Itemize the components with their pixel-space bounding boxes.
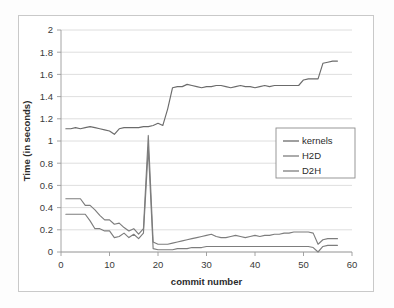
legend-label-h2d: H2D (302, 150, 321, 161)
x-tick-label: 60 (347, 259, 358, 270)
x-tick-label: 50 (298, 259, 309, 270)
y-tick-label: 1.4 (40, 91, 53, 102)
x-tick-label: 30 (201, 259, 212, 270)
x-tick-label: 10 (104, 259, 115, 270)
legend-label-d2h: D2H (302, 165, 321, 176)
x-tick-label: 40 (250, 259, 261, 270)
y-tick-label: 0.4 (40, 202, 53, 213)
x-tick-label: 0 (58, 259, 63, 270)
chart-figure: 00.20.40.60.811.21.41.61.82 010203040506… (0, 0, 394, 308)
line-chart: 00.20.40.60.811.21.41.61.82 010203040506… (0, 0, 394, 308)
y-tick-labels: 00.20.40.60.811.21.41.61.82 (40, 24, 53, 257)
x-axis (61, 252, 352, 256)
y-axis-title: Time (in seconds) (21, 101, 32, 182)
x-tick-label: 20 (153, 259, 164, 270)
y-tick-label: 0.6 (40, 180, 53, 191)
y-tick-label: 1.8 (40, 47, 53, 58)
y-tick-label: 0 (48, 246, 53, 257)
y-tick-label: 0.8 (40, 158, 53, 169)
y-tick-label: 2 (48, 24, 53, 35)
x-tick-labels: 0102030405060 (58, 259, 357, 270)
y-tick-label: 0.2 (40, 224, 53, 235)
y-tick-label: 1.2 (40, 113, 53, 124)
y-tick-label: 1 (48, 135, 53, 146)
y-tick-label: 1.6 (40, 69, 53, 80)
y-axis (57, 30, 61, 252)
x-axis-title: commit number (171, 276, 243, 287)
chart-legend: kernelsH2DD2H (276, 128, 355, 178)
series-line-kernels (66, 61, 338, 134)
legend-label-kernels: kernels (302, 135, 333, 146)
